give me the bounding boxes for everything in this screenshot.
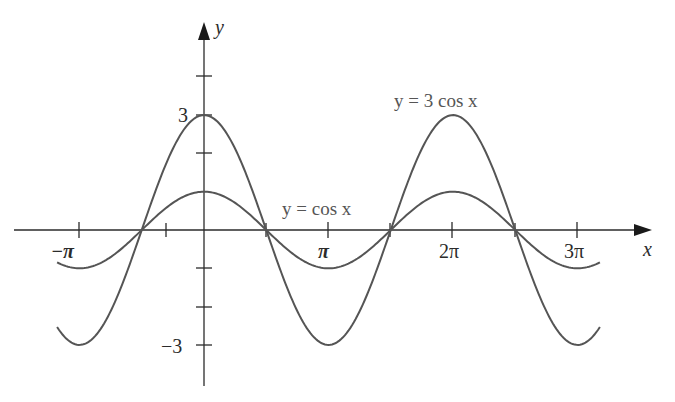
curve-label-cos-x: y = cos x: [282, 198, 352, 219]
x-tick-label-pi: π: [318, 240, 330, 262]
y-axis-label: y: [213, 16, 224, 39]
x-tick-label-neg-pi: −π: [51, 240, 75, 262]
x-axis-label: x: [642, 238, 652, 260]
y-tick-label-3: 3: [178, 104, 188, 126]
cosine-chart: y x 3 −3 −π π 2π 3π y = 3 cos x y = cos …: [0, 0, 675, 402]
x-tick-label-2pi: 2π: [439, 240, 459, 262]
x-tick-label-3pi: 3π: [564, 240, 584, 262]
x-axis-arrow-icon: [634, 224, 652, 236]
y-axis-arrow-icon: [198, 22, 210, 40]
curve-label-3cos-x: y = 3 cos x: [394, 90, 478, 111]
y-tick-label-neg3: −3: [161, 335, 182, 357]
